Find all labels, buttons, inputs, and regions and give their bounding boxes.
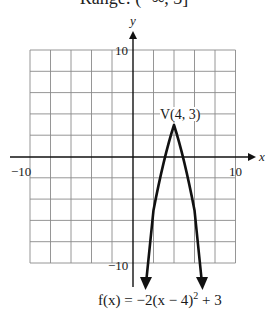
y-max-tick-label: 10 — [115, 43, 128, 58]
x-min-tick-label: −10 — [11, 164, 31, 179]
x-max-tick-label: 10 — [229, 164, 242, 179]
left-arrowhead-icon — [140, 277, 152, 290]
vertex-label: V(4, 3) — [160, 107, 201, 123]
y-min-tick-label: −10 — [108, 258, 128, 273]
y-axis-label: y — [128, 13, 136, 28]
formula-suffix: + 3 — [198, 292, 221, 308]
function-formula: f(x) = −2(x − 4)2 + 3 — [98, 290, 222, 309]
parabola-chart: x y −10 10 10 −10 V(4, 3) f(x) = −2(x − … — [0, 0, 268, 309]
right-arrowhead-icon — [196, 277, 208, 290]
x-axis-label: x — [258, 149, 265, 164]
formula-prefix: f(x) = −2(x − 4) — [98, 292, 193, 309]
